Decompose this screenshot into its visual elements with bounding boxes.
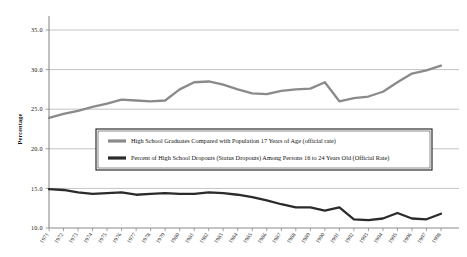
y-axis-title-text: Percentage bbox=[16, 113, 23, 144]
x-tick-label: 1987 bbox=[271, 231, 282, 244]
x-axis bbox=[49, 16, 459, 228]
x-tick-label: 1971 bbox=[38, 231, 49, 244]
x-tick-label: 1998 bbox=[430, 231, 441, 244]
line-chart: 35.030.025.020.015.010.0 197119721973197… bbox=[0, 0, 467, 257]
x-tick-label: 1972 bbox=[53, 231, 64, 244]
x-tick-label: 1984 bbox=[227, 231, 238, 244]
y-tick-label: 20.0 bbox=[31, 145, 43, 152]
y-tick-label: 15.0 bbox=[31, 185, 43, 192]
y-tick-label: 30.0 bbox=[31, 66, 43, 73]
x-tick-label: 1991 bbox=[329, 231, 340, 244]
x-tick-label: 1974 bbox=[82, 231, 93, 244]
x-tick-label: 1977 bbox=[126, 231, 137, 244]
y-tick-label: 25.0 bbox=[31, 105, 43, 112]
x-tick-label: 1989 bbox=[300, 231, 311, 244]
series-line bbox=[49, 189, 441, 220]
x-tick-label: 1997 bbox=[416, 231, 427, 244]
x-axis-tick-labels: 1971197219731974197519761977197819791980… bbox=[38, 231, 441, 244]
x-tick-label: 1988 bbox=[285, 231, 296, 244]
x-tick-label: 1981 bbox=[184, 231, 195, 244]
x-tick-label: 1992 bbox=[343, 231, 354, 244]
y-axis-title: Percentage bbox=[16, 113, 23, 144]
chart-legend: High School Graduates Compared with Popu… bbox=[96, 129, 432, 170]
legend-label: Percent of High School Dropouts (Status … bbox=[131, 154, 389, 162]
series-line bbox=[49, 66, 441, 118]
y-tick-label: 10.0 bbox=[31, 224, 43, 231]
x-tick-label: 1986 bbox=[256, 231, 267, 244]
x-tick-label: 1980 bbox=[169, 231, 180, 244]
x-tick-label: 1994 bbox=[372, 231, 383, 244]
x-tick-label: 1983 bbox=[213, 231, 224, 244]
x-tick-label: 1978 bbox=[140, 231, 151, 244]
y-axis-tick-labels: 35.030.025.020.015.010.0 bbox=[31, 26, 43, 231]
x-tick-label: 1995 bbox=[387, 231, 398, 244]
x-tick-label: 1993 bbox=[358, 231, 369, 244]
chart-canvas: 35.030.025.020.015.010.0 197119721973197… bbox=[0, 0, 467, 257]
x-tick-label: 1996 bbox=[401, 231, 412, 244]
x-tick-label: 1979 bbox=[155, 231, 166, 244]
legend-box bbox=[96, 129, 432, 170]
y-tick-label: 35.0 bbox=[31, 26, 43, 33]
x-tick-label: 1973 bbox=[68, 231, 79, 244]
x-tick-label: 1982 bbox=[198, 231, 209, 244]
x-tick-label: 1990 bbox=[314, 231, 325, 244]
x-tick-label: 1976 bbox=[111, 231, 122, 244]
x-tick-label: 1975 bbox=[97, 231, 108, 244]
x-tick-label: 1985 bbox=[242, 231, 253, 244]
legend-label: High School Graduates Compared with Popu… bbox=[131, 137, 336, 145]
